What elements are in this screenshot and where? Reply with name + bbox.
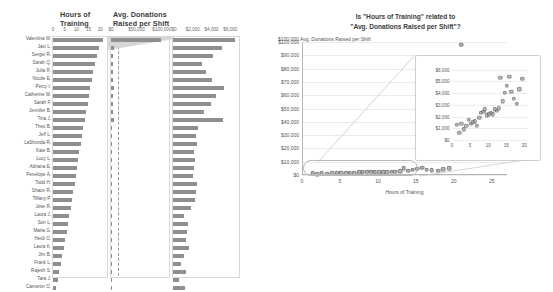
table-row[interactable]: Sarah Q. [0,60,240,68]
table-row[interactable]: Tiffany P. [0,196,240,204]
table-row[interactable]: Frank L. [0,260,240,268]
donations-zoom-bar[interactable] [173,110,204,114]
hours-bar[interactable] [53,278,58,282]
donations-zoom-bar[interactable] [173,286,185,290]
donations-bar[interactable] [111,38,161,42]
donations-bar[interactable] [111,198,112,202]
scatter-point[interactable] [441,167,446,172]
donations-bar[interactable] [111,54,113,58]
inset-point[interactable] [462,127,466,131]
hours-bar[interactable] [53,126,83,130]
table-row[interactable]: Julia R. [0,68,240,76]
table-row[interactable]: Sarah F. [0,100,240,108]
donations-zoom-bar[interactable] [173,134,196,138]
donations-bar[interactable] [111,46,114,50]
table-row[interactable]: Kate B. [0,148,240,156]
table-row[interactable]: Rajesh S. [0,268,240,276]
donations-zoom-bar[interactable] [173,94,216,98]
donations-bar[interactable] [111,126,112,130]
donations-bar[interactable] [111,214,112,218]
donations-bar[interactable] [111,222,112,226]
inset-point[interactable] [469,121,473,125]
hours-bar[interactable] [53,158,78,162]
donations-zoom-bar[interactable] [173,46,222,50]
donations-zoom-bar[interactable] [173,142,197,146]
donations-zoom-bar[interactable] [173,54,213,58]
donations-bar[interactable] [111,278,112,282]
donations-bar[interactable] [111,182,112,186]
hours-bar[interactable] [53,94,89,98]
inset-point[interactable] [479,111,483,115]
donations-zoom-bar[interactable] [173,230,187,234]
inset-point[interactable] [505,84,509,88]
table-row[interactable]: Penelope A. [0,172,240,180]
hours-bar[interactable] [53,190,73,194]
hours-bar[interactable] [53,62,95,66]
hours-bar[interactable] [53,254,62,258]
hours-bar[interactable] [53,270,59,274]
donations-zoom-bar[interactable] [173,262,181,266]
donations-bar[interactable] [111,230,112,234]
table-row[interactable]: Tina J. [0,116,240,124]
donations-bar[interactable] [111,190,112,194]
donations-zoom-bar[interactable] [173,254,184,258]
inset-point[interactable] [457,131,461,135]
donations-bar[interactable] [111,94,113,98]
hours-bar[interactable] [53,38,103,42]
inset-point[interactable] [507,74,511,78]
donations-bar[interactable] [111,270,112,274]
table-row[interactable]: Valentina M. [0,36,240,44]
donations-zoom-bar[interactable] [173,270,186,274]
hours-bar[interactable] [53,222,68,226]
hours-bar[interactable] [53,118,85,122]
table-row[interactable]: Lucy L. [0,156,240,164]
hours-bar[interactable] [53,286,56,290]
hours-bar[interactable] [53,70,93,74]
scatter-selection-box[interactable] [303,160,418,176]
donations-zoom-bar[interactable] [173,38,235,42]
donations-bar[interactable] [111,142,112,146]
table-row[interactable]: Sergei R. [0,52,240,60]
donations-bar[interactable] [111,102,113,106]
donations-zoom-bar[interactable] [173,118,223,122]
donations-zoom-bar[interactable] [173,206,191,210]
hours-bar[interactable] [53,206,71,210]
hours-bar[interactable] [53,54,97,58]
table-row[interactable]: Todd H. [0,180,240,188]
donations-zoom-bar[interactable] [173,174,193,178]
table-row[interactable]: LaShonda R. [0,140,240,148]
donations-zoom-bar[interactable] [173,158,195,162]
table-row[interactable]: Catherine M. [0,92,240,100]
scatter-point[interactable] [430,168,435,173]
donations-bar[interactable] [111,86,114,90]
donations-zoom-bar[interactable] [173,86,224,90]
hours-bar[interactable] [53,142,81,146]
donations-bar[interactable] [111,246,112,250]
hours-bar[interactable] [53,150,79,154]
donations-zoom-bar[interactable] [173,198,195,202]
table-row[interactable]: Percy I. [0,84,240,92]
hours-bar[interactable] [53,214,69,218]
table-row[interactable]: Adriana E. [0,164,240,172]
donations-zoom-bar[interactable] [173,166,194,170]
table-row[interactable]: Javi L. [0,44,240,52]
donations-zoom-bar[interactable] [173,102,211,106]
scatter-point[interactable] [447,166,452,171]
table-row[interactable]: Jennifer B. [0,108,240,116]
hours-bar[interactable] [53,166,77,170]
inset-point[interactable] [517,87,521,91]
inset-point[interactable] [500,99,504,103]
donations-zoom-bar[interactable] [173,278,179,282]
donations-bar[interactable] [111,70,113,74]
hours-bar[interactable] [53,86,90,90]
table-row[interactable]: Jim B. [0,252,240,260]
hours-bar[interactable] [53,182,75,186]
hours-bar[interactable] [53,198,72,202]
inset-point[interactable] [455,123,459,127]
table-row[interactable]: Theo B. [0,124,240,132]
hours-bar[interactable] [53,78,92,82]
hours-bar[interactable] [53,230,67,234]
inset-point[interactable] [503,91,507,95]
hours-bar[interactable] [53,134,82,138]
table-row[interactable]: Jose R. [0,204,240,212]
